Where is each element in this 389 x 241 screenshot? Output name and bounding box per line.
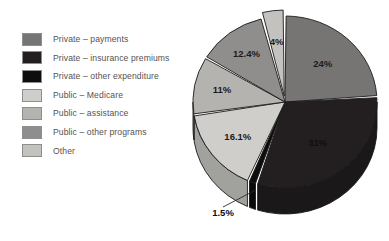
pie-slices (193, 10, 377, 188)
pie-chart-figure: Private – payments Private – insurance p… (0, 0, 389, 241)
pie-chart-plot: 24%31%1.5%16.1%11%12.4%4% (185, 6, 389, 234)
pie-slice-label: 16.1% (224, 131, 251, 142)
legend-item-other[interactable]: Other (22, 142, 190, 161)
legend-item-public-medicare[interactable]: Public – Medicare (22, 86, 190, 105)
pie-slice-label: 31% (308, 137, 328, 148)
legend-swatch-icon (22, 89, 42, 102)
legend-item-label: Private – payments (53, 35, 128, 44)
legend-item-label: Private – other expenditure (53, 72, 159, 81)
legend-item-label: Public – Medicare (53, 91, 123, 100)
legend-swatch-icon (22, 70, 42, 83)
legend-swatch-icon (22, 126, 42, 139)
pie-svg: 24%31%1.5%16.1%11%12.4%4% (185, 6, 389, 234)
pie-slice-label: 12.4% (233, 48, 260, 59)
legend-item-label: Public – other programs (53, 128, 147, 137)
legend-item-public-assistance[interactable]: Public – assistance (22, 104, 190, 123)
legend-item-label: Public – assistance (53, 109, 128, 118)
legend-swatch-icon (22, 33, 42, 46)
legend-item-label: Other (53, 147, 75, 156)
legend-item-private-payments[interactable]: Private – payments (22, 30, 190, 49)
legend-swatch-icon (22, 107, 42, 120)
legend-item-private-other-expenditure[interactable]: Private – other expenditure (22, 67, 190, 86)
pie-slice-label: 1.5% (212, 207, 234, 218)
legend-item-private-insurance-premiums[interactable]: Private – insurance premiums (22, 49, 190, 68)
pie-slice-label: 24% (313, 58, 333, 69)
legend-swatch-icon (22, 51, 42, 64)
legend-item-label: Private – insurance premiums (53, 54, 169, 63)
pie-slice-label: 11% (213, 84, 232, 95)
chart-legend: Private – payments Private – insurance p… (22, 30, 190, 160)
pie-slice-label: 4% (270, 36, 284, 47)
pie-slice-side (249, 181, 255, 209)
legend-item-public-other-programs[interactable]: Public – other programs (22, 123, 190, 142)
legend-swatch-icon (22, 144, 42, 157)
